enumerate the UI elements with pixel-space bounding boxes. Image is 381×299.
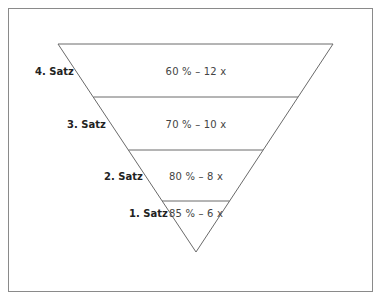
level-label-1: 1. Satz: [129, 208, 168, 219]
level-value-3: 70 % – 10 x: [166, 119, 227, 130]
level-value-1: 85 % – 6 x: [169, 208, 223, 219]
level-label-2: 2. Satz: [104, 171, 143, 182]
pyramid-shape: [0, 0, 381, 299]
level-label-4: 4. Satz: [35, 66, 74, 77]
level-value-2: 80 % – 8 x: [169, 171, 223, 182]
level-label-3: 3. Satz: [67, 119, 106, 130]
level-value-4: 60 % – 12 x: [166, 66, 227, 77]
